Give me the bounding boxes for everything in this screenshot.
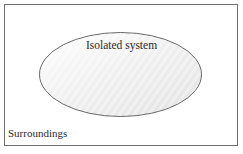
- surroundings-label: Surroundings: [8, 128, 67, 139]
- isolated-system-label: Isolated system: [0, 40, 243, 52]
- system-surroundings-diagram: Isolated system Surroundings: [0, 0, 243, 154]
